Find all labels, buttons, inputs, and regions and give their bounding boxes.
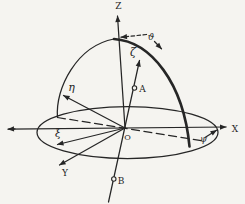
y-axis-label: Y	[61, 168, 69, 178]
psi-angle-label: ψ	[200, 134, 208, 144]
zeta-axis-label: ζ	[130, 46, 137, 59]
xi-axis	[58, 128, 126, 145]
origin-label: O	[124, 133, 131, 142]
point-b-marker	[112, 177, 116, 181]
y-axis	[60, 128, 126, 165]
xi-axis-label: ξ	[55, 127, 62, 140]
eta-axis-label: η	[68, 81, 75, 94]
meridian-arc-right	[114, 39, 190, 147]
point-b-label: B	[118, 176, 125, 186]
diagram-canvas: Z X Y η ξ ζ ϑ ψ A B O	[0, 0, 245, 204]
theta-angle-arc-arrow	[155, 42, 162, 49]
z-axis-label: Z	[115, 1, 121, 11]
x-axis-label: X	[232, 124, 239, 134]
x-axis	[9, 127, 226, 129]
theta-angle-arrow	[121, 35, 147, 38]
spherical-axes-figure: Z X Y η ξ ζ ϑ ψ A B O	[0, 0, 245, 204]
meridian-arc-left	[57, 39, 114, 118]
point-a-marker	[132, 86, 136, 90]
theta-angle-label: ϑ	[148, 32, 155, 42]
z-axis	[118, 16, 126, 128]
point-a-label: A	[138, 84, 146, 94]
